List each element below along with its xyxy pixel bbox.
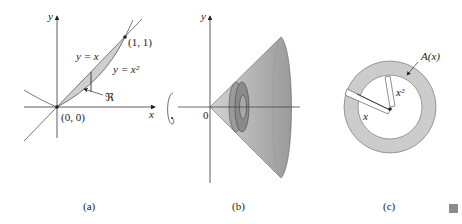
caption-c: (c) [383, 200, 396, 213]
panel-c: A(x) x x² (c) [344, 50, 440, 213]
end-of-example-mark [449, 204, 458, 213]
rotation-arrow-icon [168, 93, 174, 124]
figure-canvas: y x (1, 1) (0, 0) y = x y = x² ℜ (a) y 0… [0, 0, 462, 224]
solid-cone [210, 37, 292, 178]
caption-b: (b) [232, 200, 245, 213]
region-label: ℜ [105, 91, 114, 103]
caption-a: (a) [83, 200, 96, 213]
inner-radius-label: x² [395, 86, 405, 98]
point-origin-label: (0, 0) [61, 111, 85, 124]
point-origin [55, 105, 59, 109]
b-y-axis-label: y [200, 10, 206, 22]
panel-a: y x (1, 1) (0, 0) y = x y = x² ℜ (a) [24, 10, 155, 213]
outer-radius-label: x [362, 110, 368, 122]
x-axis-label: x [148, 108, 154, 120]
area-label: A(x) [420, 50, 440, 63]
point-1-1-label: (1, 1) [128, 36, 152, 49]
b-origin-label: 0 [203, 109, 209, 121]
y-axis-label: y [47, 10, 53, 22]
line-label: y = x [75, 50, 99, 62]
panel-b: y 0 (b) [168, 10, 300, 213]
region-pointer [84, 89, 103, 95]
parabola-label: y = x² [112, 63, 140, 75]
point-1-1 [123, 35, 127, 39]
